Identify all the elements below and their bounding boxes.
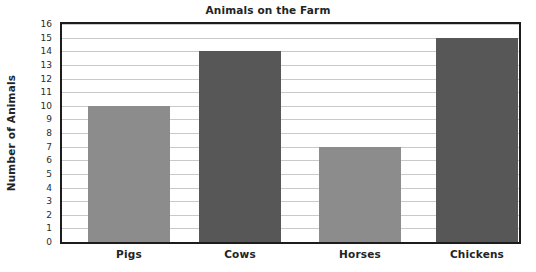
y-axis-tick-labels: 012345678910111213141516 <box>24 22 56 244</box>
y-axis-tick-label: 1 <box>46 224 52 233</box>
y-axis-tick-label: 10 <box>41 101 52 110</box>
y-axis-tick-label: 0 <box>46 238 52 247</box>
x-axis-tick-label: Horses <box>339 248 381 260</box>
plot-inner <box>62 24 519 242</box>
bar-chart: Animals on the Farm Number of Animals 01… <box>0 0 536 272</box>
y-axis-tick-label: 2 <box>46 210 52 219</box>
y-axis-tick-label: 14 <box>41 47 52 56</box>
x-axis-tick-label: Pigs <box>116 248 142 260</box>
y-axis-tick-label: 7 <box>46 142 52 151</box>
chart-title: Animals on the Farm <box>0 4 536 16</box>
y-axis-tick-label: 4 <box>46 183 52 192</box>
x-axis-tick-label: Chickens <box>450 248 504 260</box>
y-axis-tick-label: 13 <box>41 60 52 69</box>
plot-area <box>60 22 521 244</box>
bar-pigs <box>88 106 170 242</box>
bar-horses <box>319 147 401 242</box>
y-axis-tick-label: 11 <box>41 88 52 97</box>
y-axis-title: Number of Animals <box>0 22 22 244</box>
y-axis-tick-label: 3 <box>46 197 52 206</box>
y-axis-title-text: Number of Animals <box>5 75 17 192</box>
y-axis-tick-label: 15 <box>41 33 52 42</box>
y-axis-tick-label: 8 <box>46 129 52 138</box>
bar-cows <box>199 51 281 242</box>
gridline <box>62 24 519 25</box>
bar-chickens <box>436 38 518 242</box>
x-axis-tick-labels: PigsCowsHorsesChickens <box>60 246 521 268</box>
y-axis-tick-label: 9 <box>46 115 52 124</box>
y-axis-tick-label: 12 <box>41 74 52 83</box>
y-axis-tick-label: 16 <box>41 20 52 29</box>
y-axis-tick-label: 5 <box>46 169 52 178</box>
x-axis-tick-label: Cows <box>224 248 256 260</box>
y-axis-tick-label: 6 <box>46 156 52 165</box>
